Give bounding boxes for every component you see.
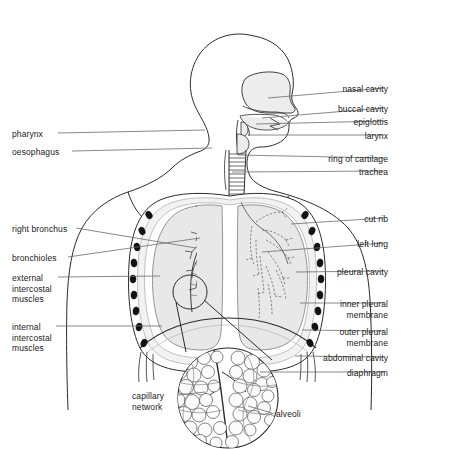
rib-dot <box>318 275 324 283</box>
left-body-outline <box>67 192 128 410</box>
label-capillary-network: capillary network <box>132 391 164 412</box>
label-alveoli: alveoli <box>276 409 301 420</box>
label-larynx: larynx <box>365 131 388 142</box>
label-bronchioles: bronchioles <box>12 253 57 264</box>
respiratory-system-illustration <box>0 0 462 449</box>
cartilage-rings <box>229 154 245 194</box>
rib-dot <box>131 291 138 300</box>
thorax-group <box>128 193 325 372</box>
leader-oesophagus <box>72 148 212 151</box>
nasal-cavity-shape <box>242 72 295 113</box>
label-nasal-cavity: nasal cavity <box>342 84 388 95</box>
leader-pharynx <box>58 130 205 133</box>
label-trachea: trachea <box>359 167 388 178</box>
larynx-shape <box>237 134 249 154</box>
label-outer-pleural-membrane: outer pleural membrane <box>339 327 388 348</box>
label-external-intercostal-muscles: external intercostal muscles <box>12 273 52 305</box>
diagram-canvas: nasal cavitybuccal cavityepiglottislaryn… <box>0 0 462 449</box>
head-back-outline <box>128 34 254 192</box>
label-ring-of-cartilage: ring of cartilage <box>328 154 388 165</box>
label-right-bronchus: right bronchus <box>12 224 67 235</box>
label-left-lung: left lung <box>357 239 388 250</box>
label-epiglottis: epiglottis <box>353 117 388 128</box>
trachea-group <box>229 150 246 196</box>
label-cut-rib: cut rib <box>364 214 388 225</box>
label-buccal-cavity: buccal cavity <box>338 104 388 115</box>
rib-dot <box>317 291 324 300</box>
oesophagus-line <box>225 150 227 190</box>
trachea-walls <box>229 150 246 196</box>
label-oesophagus: oesophagus <box>12 147 59 158</box>
label-pharynx: pharynx <box>12 129 43 140</box>
label-internal-intercostal-muscles: internal intercostal muscles <box>12 322 52 354</box>
label-diaphragm: diaphragm <box>347 368 388 379</box>
label-inner-pleural-membrane: inner pleural membrane <box>340 299 388 320</box>
label-pleural-cavity: pleural cavity <box>337 267 388 278</box>
label-abdominal-cavity: abdominal cavity <box>323 353 388 364</box>
